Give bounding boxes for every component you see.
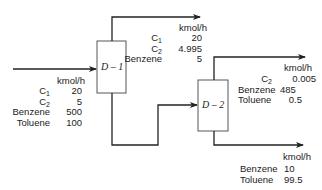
d2-bottoms-benzene-label: Benzene	[240, 164, 278, 175]
d2-overhead-unit-label: kmol/h	[284, 62, 312, 73]
column-d2-label: D – 2	[202, 99, 224, 110]
feed-c1-value: 20	[60, 86, 82, 97]
feed-benzene-label: Benzene	[4, 107, 50, 118]
d2-bottoms-unit-label: kmol/h	[283, 151, 311, 162]
d2-bottoms-benzene-value: 10	[284, 164, 295, 175]
d2-bottoms-toluene-value: 99.5	[284, 175, 303, 186]
d2-bottoms-toluene-label: Toluene	[240, 175, 273, 186]
d2-bottoms-stream-arrow	[214, 131, 303, 145]
d2-c2-label: C2	[232, 74, 272, 85]
d1-c1-value: 20	[168, 33, 202, 44]
d2-c2-value: 0.005	[280, 74, 316, 85]
d1-benzene-label: Benzene	[120, 54, 162, 65]
d1-benzene-value: 5	[168, 54, 202, 65]
d2-toluene-value: 0.5	[280, 95, 302, 106]
d2-toluene-label: Toluene	[238, 95, 271, 106]
feed-benzene-value: 500	[60, 107, 82, 118]
feed-toluene-value: 100	[60, 118, 82, 129]
d1-bottoms-stream-arrow	[112, 93, 197, 145]
feed-toluene-label: Toluene	[4, 118, 50, 129]
